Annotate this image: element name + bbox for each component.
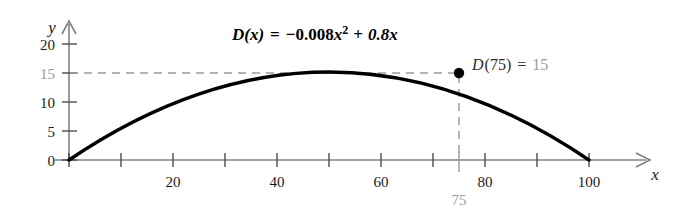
formula-equals: = — [270, 25, 280, 44]
x-tick-label-80: 80 — [478, 174, 493, 190]
formula-label: D(x)=−0.008x2+0.8x — [231, 23, 398, 44]
svg-text:D(75)=15: D(75)=15 — [471, 56, 548, 74]
annotation-equals: = — [517, 56, 526, 73]
x-axis-label: x — [650, 165, 659, 184]
y-tick-label-10: 10 — [40, 95, 55, 111]
point-annotation: D(75)=15 — [471, 56, 548, 74]
x-tick-label-20: 20 — [166, 174, 181, 190]
x-tick-label-75-highlight: 75 — [452, 192, 467, 208]
annotation-function-name: D — [471, 56, 484, 73]
y-tick-label-15: 15 — [40, 66, 55, 82]
y-axis-label: y — [46, 18, 56, 37]
formula-plus: + — [353, 25, 363, 44]
formula-term1-coefficient: −0.008 — [286, 25, 334, 44]
annotation-argument: (75) — [485, 56, 512, 74]
x-tick-label-100: 100 — [578, 174, 601, 190]
formula-function-name: D(x) — [231, 25, 264, 44]
formula-term2: 0.8x — [368, 25, 398, 44]
y-tick-label-20: 20 — [40, 37, 55, 53]
formula-term1-variable: x — [333, 25, 343, 44]
y-tick-label-5: 5 — [48, 124, 56, 140]
svg-text:D(x)=−0.008x2+0.8x: D(x)=−0.008x2+0.8x — [231, 23, 398, 44]
y-tick-label-0: 0 — [48, 153, 56, 169]
x-tick-label-60: 60 — [374, 174, 389, 190]
annotation-value: 15 — [532, 56, 548, 73]
quadratic-function-graph: 0 5 10 15 20 20 40 60 80 100 75 y x D(x)… — [0, 0, 678, 211]
x-tick-label-40: 40 — [270, 174, 285, 190]
marked-point-dot — [454, 68, 464, 78]
formula-term1-exponent: 2 — [342, 23, 348, 37]
